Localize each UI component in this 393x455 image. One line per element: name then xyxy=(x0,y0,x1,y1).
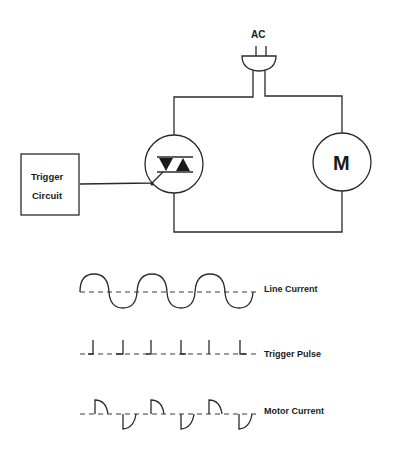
motor-current-label: Motor Current xyxy=(264,406,324,416)
diagram-canvas: AC Trigger Circuit M Line Current xyxy=(0,0,393,455)
motor-current-waveform xyxy=(80,400,258,429)
motor-label: M xyxy=(333,152,350,174)
line-current-waveform xyxy=(80,274,258,308)
ac-plug-icon xyxy=(242,46,276,71)
trigger-pulse-waveform xyxy=(80,340,258,354)
circuit-wires xyxy=(80,70,342,232)
trigger-label-line2: Circuit xyxy=(32,190,63,201)
ac-label: AC xyxy=(251,29,265,40)
trigger-label-line1: Trigger xyxy=(31,171,64,182)
trigger-pulse-label: Trigger Pulse xyxy=(264,349,321,359)
triac-icon xyxy=(145,135,203,193)
line-current-label: Line Current xyxy=(264,284,318,294)
trigger-circuit-box xyxy=(21,154,79,215)
